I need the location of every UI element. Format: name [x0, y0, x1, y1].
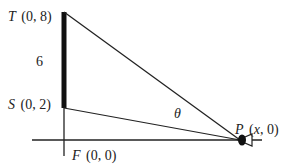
label-p: P (x, 0) [234, 122, 279, 138]
label-t: T (0, 8) [8, 9, 52, 25]
label-f: F (0, 0) [71, 148, 117, 164]
diagram-canvas: T (0, 8) 6 S (0, 2) F (0, 0) θ P (x, 0) [0, 0, 289, 166]
label-s: S (0, 2) [8, 97, 51, 113]
label-length: 6 [36, 54, 43, 69]
line-sp [64, 108, 240, 140]
label-theta: θ [174, 106, 181, 121]
line-tp [64, 12, 240, 140]
